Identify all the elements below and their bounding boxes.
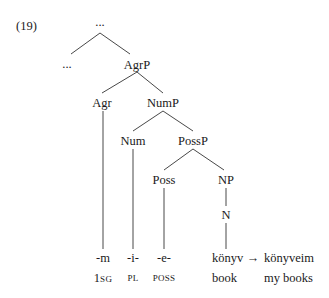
tree-node-nump: NumP: [147, 96, 179, 110]
tree-node-root: ...: [95, 15, 104, 29]
morpheme-result: könyveim: [264, 251, 314, 265]
gloss-stem: book: [212, 271, 237, 285]
gloss-result: my books: [264, 271, 313, 285]
tree-node-poss: Poss: [153, 173, 176, 187]
morpheme-agr: -m: [96, 251, 110, 265]
tree-node-n: N: [221, 208, 230, 222]
tree-node-agr: Agr: [92, 96, 111, 110]
tree-node-num: Num: [121, 134, 146, 148]
tree-node-left-sibling: ...: [62, 57, 71, 71]
morpheme-stem: könyv: [212, 251, 243, 265]
gloss-poss: POSS: [153, 271, 176, 285]
gloss-num: PL: [127, 271, 138, 285]
tree-node-agrp: AgrP: [124, 58, 150, 72]
morpheme-poss: -e-: [157, 251, 171, 265]
example-number: (19): [16, 19, 37, 33]
morpheme-num: -i-: [127, 251, 139, 265]
arrow-icon: →: [247, 251, 260, 265]
tree-node-np: NP: [218, 173, 234, 187]
tree-node-possp: PossP: [178, 134, 208, 148]
gloss-agr-number: SG: [100, 274, 112, 284]
gloss-agr: 1SG: [94, 271, 112, 286]
